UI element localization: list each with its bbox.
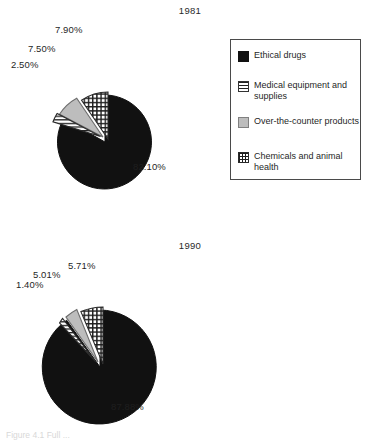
pie-label-medical-equipment-1981: 2.50% (11, 59, 38, 70)
chart-panel-1981: 1981 7.90% 7 (0, 0, 380, 220)
solid-black-swatch-icon (238, 51, 249, 62)
pie-label-over-the-counter-1981: 7.50% (28, 43, 55, 54)
chart-title-1990: 1990 (0, 240, 380, 251)
legend-label-medical-equipment: Medical equipment and supplies (254, 80, 360, 101)
pie-label-chemicals-animal-health-1981: 7.90% (55, 24, 82, 35)
chart-title-1981: 1981 (0, 5, 380, 16)
legend-item-medical-equipment: Medical equipment and supplies (238, 80, 360, 101)
pie-label-chemicals-animal-health-1990: 5.71% (68, 260, 95, 271)
checkered-swatch-icon (238, 152, 249, 163)
legend-label-over-the-counter: Over-the-counter products (254, 116, 359, 127)
horizontal-lines-swatch-icon (238, 81, 249, 92)
legend-label-chemicals-animal-health: Chemicals and animal health (254, 151, 360, 172)
pie-chart-1981: 7.90% 7.50% 2.50% 82.10% (8, 22, 208, 197)
pie-label-ethical-drugs-1990: 87.88% (111, 401, 144, 412)
pie-label-medical-equipment-1990: 1.40% (16, 279, 43, 290)
legend-item-ethical-drugs: Ethical drugs (238, 50, 306, 62)
pie-label-ethical-drugs-1981: 82.10% (133, 161, 166, 172)
light-gray-swatch-icon (238, 117, 249, 128)
chart-panel-1990: 1990 5.71% 5 (0, 220, 380, 420)
pie-chart-1990: 5.71% 5.01% 1.40% 87.88% (8, 260, 208, 425)
legend-item-chemicals-animal-health: Chemicals and animal health (238, 151, 360, 172)
legend-1981: Ethical drugs Medical equipment and supp… (230, 39, 361, 180)
legend-label-ethical-drugs: Ethical drugs (254, 50, 306, 61)
figure-caption-partial: Figure 4.1 Full ... (6, 430, 374, 440)
legend-item-over-the-counter: Over-the-counter products (238, 116, 359, 128)
